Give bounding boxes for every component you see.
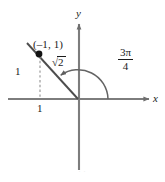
hypotenuse-length-label: √2	[51, 56, 66, 68]
vertical-leg-length-label: 1	[15, 66, 21, 77]
angle-arc	[61, 70, 108, 99]
point-marker	[36, 51, 43, 58]
radicand: 2	[57, 56, 66, 68]
y-axis-label: y	[76, 8, 81, 19]
horizontal-leg-length-label: 1	[37, 103, 43, 114]
angle-measure-label: 3π 4	[118, 47, 133, 73]
radical-sign: √2	[51, 56, 66, 68]
coordinate-plane-graphic	[0, 0, 165, 182]
math-figure: (–1, 1) y x 1 1 √2 3π 4 · ·	[0, 0, 165, 182]
x-axis-label: x	[153, 93, 158, 104]
bottom-artifact: · ·	[62, 166, 102, 178]
angle-denominator: 4	[118, 61, 133, 73]
point-coordinate-label: (–1, 1)	[33, 39, 63, 50]
angle-numerator: 3π	[118, 47, 133, 59]
angle-fraction: 3π 4	[118, 47, 133, 73]
